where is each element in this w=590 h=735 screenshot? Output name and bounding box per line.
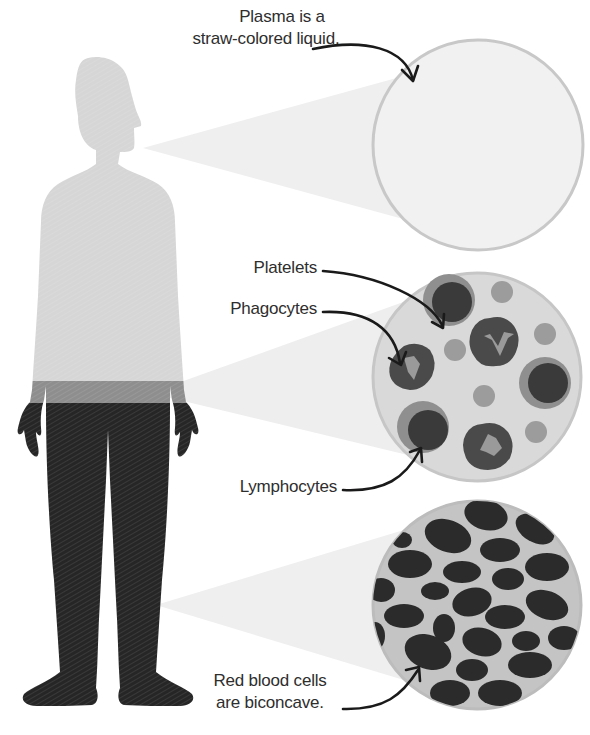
red-blood-cell (456, 659, 488, 681)
platelets-label: Platelets (220, 257, 317, 279)
phagocyte-cell (469, 317, 518, 366)
red-blood-cell (508, 652, 552, 678)
rbc-label: Red blood cells are biconcave. (195, 670, 345, 714)
phagocyte-cell (463, 423, 513, 470)
phagocytes-label: Phagocytes (200, 298, 317, 320)
red-blood-cell (512, 631, 540, 651)
red-blood-cell (421, 582, 449, 600)
lymphocyte-cell (519, 357, 571, 409)
red-blood-cell (548, 626, 580, 650)
rbc-label-line2: are biconcave. (195, 692, 345, 714)
red-blood-cell (525, 553, 569, 581)
red-blood-cell (443, 561, 481, 583)
blood-components-diagram: Plasma is a straw-colored liquid. Platel… (0, 0, 590, 735)
lymphocyte-cell (397, 401, 449, 453)
platelet-cell (525, 421, 547, 443)
white-cells-circle-icon (373, 273, 581, 481)
platelet-cell (444, 339, 466, 361)
red-blood-cell (388, 550, 432, 578)
platelet-cell (473, 385, 495, 407)
lymphocyte-cell (423, 274, 475, 326)
red-blood-cell (480, 538, 520, 562)
plasma-label-line2: straw-colored liquid. (171, 28, 361, 50)
red-blood-cell (485, 605, 525, 629)
rbc-label-line1: Red blood cells (195, 670, 345, 692)
platelet-cell (534, 323, 556, 345)
plasma-label-line1: Plasma is a (207, 6, 357, 28)
diagram-canvas (0, 0, 590, 735)
plasma-label: Plasma is a straw-colored liquid. (207, 6, 357, 50)
lymphocytes-label: Lymphocytes (200, 476, 337, 498)
red-blood-cell (492, 568, 524, 590)
platelet-cell (491, 281, 513, 303)
red-blood-cell (384, 604, 424, 628)
